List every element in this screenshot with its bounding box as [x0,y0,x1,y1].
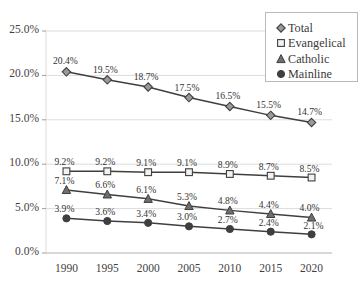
line-chart: 0.0%5.0%10.0%15.0%20.0%25.0% 19901995200… [0,0,358,296]
data-label-total: 20.4% [48,55,82,66]
data-label-evangelical: 8.7% [252,161,286,172]
data-label-mainline: 3.0% [170,211,204,222]
data-label-catholic: 4.0% [293,202,327,213]
data-point-mainline [267,228,274,235]
data-label-total: 18.7% [129,71,163,82]
y-axis-tick-label: 15.0% [0,112,39,124]
legend-label: Mainline [288,67,332,81]
data-label-total: 14.7% [293,106,327,117]
data-point-mainline [104,217,111,224]
data-point-total [103,76,111,84]
data-label-mainline: 3.4% [129,208,163,219]
data-label-catholic: 6.1% [129,184,163,195]
y-axis-tick-label: 20.0% [0,67,39,79]
legend-item-total[interactable]: Total [274,20,313,35]
data-label-catholic: 4.8% [211,195,245,206]
data-label-mainline: 2.7% [211,214,245,225]
data-point-total [144,83,152,91]
data-label-total: 19.5% [88,64,122,75]
square-glyph [278,40,285,47]
data-label-total: 17.5% [170,82,204,93]
data-label-mainline: 3.6% [88,206,122,217]
data-point-evangelical [267,172,274,179]
data-label-catholic: 5.3% [170,191,204,202]
data-label-total: 16.5% [211,90,245,101]
data-point-mainline [226,225,233,232]
data-point-total [62,68,70,76]
data-label-total: 15.5% [252,99,286,110]
data-label-evangelical: 9.1% [129,157,163,168]
data-label-mainline: 3.9% [47,203,81,214]
data-label-catholic: 4.4% [252,199,286,210]
data-point-evangelical [104,168,111,175]
data-point-total [267,111,275,119]
legend-label: Evangelical [288,36,346,50]
diamond-marker-icon [274,21,288,35]
y-axis-tick-label: 25.0% [0,23,39,35]
square-marker-icon [274,36,288,50]
data-point-evangelical [63,168,70,175]
chart-legend: TotalEvangelicalCatholicMainline [265,12,358,82]
x-axis-tick-label: 2020 [287,262,337,274]
data-label-catholic: 7.1% [47,175,81,186]
legend-item-evangelical[interactable]: Evangelical [274,36,346,51]
legend-label: Total [288,21,313,35]
data-label-catholic: 6.6% [88,179,122,190]
triangle-marker-icon [274,52,288,66]
legend-label: Catholic [288,52,329,66]
y-axis-tick-label: 10.0% [0,156,39,168]
data-point-evangelical [308,174,315,181]
data-point-mainline [185,223,192,230]
data-point-evangelical [145,169,152,176]
circle-glyph [277,70,284,77]
diamond-glyph [277,23,285,31]
data-point-total [226,102,234,110]
data-label-evangelical: 9.1% [170,157,204,168]
data-point-evangelical [226,171,233,178]
data-label-evangelical: 9.2% [47,156,81,167]
data-label-mainline: 2.4% [252,217,286,228]
data-point-mainline [63,215,70,222]
legend-item-catholic[interactable]: Catholic [274,51,329,66]
y-axis-tick-label: 0.0% [0,245,39,257]
data-point-evangelical [186,169,193,176]
data-label-evangelical: 8.9% [211,159,245,170]
data-label-evangelical: 8.5% [293,163,327,174]
data-point-mainline [145,219,152,226]
circle-marker-icon [274,67,288,81]
data-point-total [185,93,193,101]
data-label-evangelical: 9.2% [88,156,122,167]
y-axis-tick-label: 5.0% [0,201,39,213]
legend-item-mainline[interactable]: Mainline [274,67,332,82]
data-label-mainline: 2.1% [297,220,331,231]
data-point-mainline [308,231,315,238]
triangle-glyph [277,54,285,62]
